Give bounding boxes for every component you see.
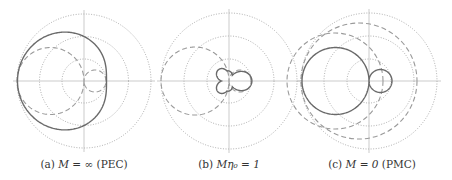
caption-b-prefix: (b): [198, 158, 213, 170]
caption-b: (b) Mη₀ = 1: [198, 158, 260, 170]
caption-a-prefix: (a): [40, 158, 54, 170]
caption-b-math: Mη₀ = 1: [216, 158, 259, 170]
radiation-pattern-figure: (a) M = ∞ (PEC) (b) Mη₀ = 1 (c) M = 0 (P…: [0, 0, 452, 180]
caption-c-suffix: (PMC): [382, 158, 416, 170]
caption-c-math: M = 0: [346, 158, 379, 170]
caption-a: (a) M = ∞ (PEC): [40, 158, 127, 170]
caption-a-math: M = ∞: [58, 158, 93, 170]
caption-c: (c) M = 0 (PMC): [328, 158, 416, 170]
caption-a-suffix: (PEC): [97, 158, 128, 170]
caption-c-prefix: (c): [328, 158, 342, 170]
polar-plots: [0, 0, 452, 160]
